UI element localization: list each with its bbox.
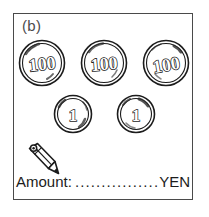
coin-100-yen[interactable]: 100 <box>17 38 67 88</box>
worksheet-frame: (b) 100 100 <box>13 13 193 200</box>
pencil-icon <box>24 142 64 176</box>
svg-text:100: 100 <box>90 53 119 75</box>
svg-text:1: 1 <box>131 106 140 125</box>
coin-1-yen[interactable]: 1 <box>115 93 157 135</box>
coin-100-yen[interactable]: 100 <box>79 38 129 88</box>
coin-row-1-yen: 1 1 <box>14 93 194 135</box>
worksheet-figure: (b) 100 100 <box>0 0 209 217</box>
amount-label: Amount: <box>16 174 72 189</box>
svg-text:1: 1 <box>68 106 77 125</box>
amount-answer-line: Amount: ...................... YEN <box>16 174 192 194</box>
coin-1-yen[interactable]: 1 <box>52 93 94 135</box>
coin-100-yen[interactable]: 100 <box>141 38 191 88</box>
coin-row-100-yen: 100 100 100 <box>14 38 194 88</box>
amount-currency-unit: YEN <box>159 174 192 189</box>
svg-text:100: 100 <box>28 52 57 75</box>
panel-label: (b) <box>22 18 41 33</box>
amount-input-dotted-line[interactable]: ...................... <box>72 174 159 189</box>
